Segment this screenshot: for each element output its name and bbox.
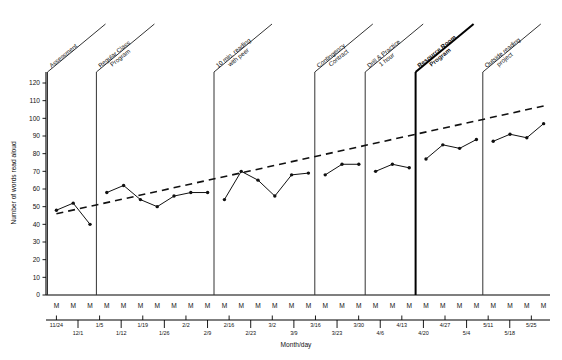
data-point [492,140,495,143]
date-tick-label: 2/16 [224,322,235,328]
y-tick-label: 0 [36,291,40,298]
phase-label-group: Drill & Practice1 hour [365,37,406,73]
session-label: M [188,302,194,309]
data-point [424,157,427,160]
data-point [256,178,259,181]
data-point [273,194,276,197]
session-label: M [339,302,345,309]
phase-label-group: Assessment [48,42,79,69]
phase-label-group: Outside readingproject [483,35,526,73]
session-label: M [322,302,328,309]
y-tick-label: 100 [29,115,40,122]
date-tick-label: 2/2 [182,322,190,328]
data-point [206,191,209,194]
y-tick-label: 50 [33,203,41,210]
date-tick-label: 1/26 [159,330,170,336]
date-tick-label: 4/13 [397,322,408,328]
session-label: M [406,302,412,309]
data-point [156,205,159,208]
session-label: M [255,302,261,309]
data-point [223,198,226,201]
data-point [391,163,394,166]
session-label: M [238,302,244,309]
y-tick-label: 70 [33,168,41,175]
session-label: M [306,302,312,309]
data-point [290,173,293,176]
data-point [240,170,243,173]
date-tick-label: 1/5 [96,322,104,328]
y-tick-label: 10 [33,274,41,281]
date-tick-label: 4/6 [376,330,384,336]
data-point [357,163,360,166]
y-tick-label: 90 [33,132,41,139]
date-tick-label: 11/24 [50,322,63,328]
session-label: M [289,302,295,309]
date-tick-label: 12/1 [73,330,84,336]
date-tick-marks [56,316,531,329]
date-tick-label: 5/11 [483,322,493,328]
session-label: M [87,302,93,309]
session-label: M [490,302,496,309]
session-label: M [205,302,211,309]
data-point [189,191,192,194]
date-tick-label: 3/30 [353,322,364,328]
data-point [105,191,108,194]
chart-container: 0102030405060708090100110120 AssessmentR… [0,0,562,360]
data-point [172,194,175,197]
y-tick-label: 20 [33,256,41,263]
session-label: M [356,302,362,309]
date-tick-label: 3/16 [310,322,321,328]
y-tick-label: 120 [29,79,40,86]
session-label: M [138,302,144,309]
phase-divider-lines [48,24,541,295]
phase-label-line: Assessment [48,42,79,69]
date-tick-label: 2/23 [245,330,256,336]
session-label: M [390,302,396,309]
session-label: M [54,302,60,309]
date-tick-label: 5/18 [505,330,516,336]
session-label: M [373,302,379,309]
y-tick-label: 40 [33,221,41,228]
y-axis-title: Number of words read aloud [10,141,17,225]
data-point [340,163,343,166]
trend-line [56,106,543,214]
y-tick-label: 110 [29,97,40,104]
date-tick-label: 2/9 [204,330,212,336]
session-label: M [474,302,480,309]
data-point [374,170,377,173]
session-label: M [222,302,228,309]
data-point [139,198,142,201]
phase-labels: AssessmentRegular ClassProgram10 min. re… [48,33,526,74]
session-label: M [171,302,177,309]
session-label: M [121,302,127,309]
date-tick-labels: 11/2412/11/51/121/191/262/22/92/162/233/… [50,322,537,336]
data-point [408,166,411,169]
phase-label-group: Regular ClassProgram [97,39,136,74]
y-tick-label: 30 [33,238,41,245]
phase-label-group: 10 min. readingwith peer [214,36,256,74]
data-point [508,133,511,136]
session-label: M [440,302,446,309]
date-tick-label: 3/9 [290,330,298,336]
data-series-line [56,124,543,225]
session-label: M [423,302,429,309]
phase-label-group: Resource RoomProgram [416,33,462,74]
data-point [441,143,444,146]
date-tick-label: 1/19 [138,322,149,328]
session-label: M [541,302,547,309]
date-tick-label: 1/12 [116,330,127,336]
date-tick-label: 4/27 [440,322,451,328]
session-label: M [154,302,160,309]
session-label: M [507,302,513,309]
session-m-labels: MMMMMMMMMMMMMMMMMMMMMMMMMMMMMM [54,302,547,309]
date-tick-label: 4/20 [418,330,429,336]
data-point [88,223,91,226]
data-point [72,201,75,204]
x-axis-title: Month/day [281,341,312,349]
session-label: M [272,302,278,309]
chart-svg: 0102030405060708090100110120 AssessmentR… [0,0,562,360]
y-axis-tick-labels: 0102030405060708090100110120 [29,79,40,298]
date-tick-label: 5/4 [463,330,471,336]
session-label: M [104,302,110,309]
date-tick-label: 3/23 [332,330,343,336]
